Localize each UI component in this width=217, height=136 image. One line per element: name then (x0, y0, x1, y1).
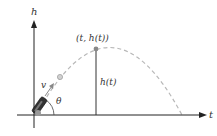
t-axis-arrow-icon (199, 112, 207, 118)
height-label: h(t) (100, 77, 117, 87)
angle-arc (46, 100, 54, 115)
angle-label: θ (56, 96, 62, 106)
point-label: (t, h(t)) (76, 33, 109, 43)
projectile-diagram: h t θ v (t, h(t)) h(t) (0, 0, 217, 136)
h-axis-arrow-icon (31, 20, 37, 28)
trajectory-point (94, 47, 99, 52)
ball-icon (57, 74, 62, 79)
t-axis-label: t (209, 109, 214, 120)
velocity-label: v (41, 80, 46, 90)
h-axis-label: h (31, 6, 37, 17)
